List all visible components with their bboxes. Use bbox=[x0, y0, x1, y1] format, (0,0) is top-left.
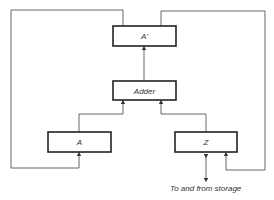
register-z: Z bbox=[175, 132, 237, 152]
storage-caption: To and from storage bbox=[170, 184, 242, 193]
register-a: A bbox=[48, 132, 111, 152]
a-to-adder-wire bbox=[79, 102, 123, 132]
adder-label: Adder bbox=[133, 87, 156, 96]
register-a-prime: A' bbox=[113, 26, 176, 46]
register-a-label: A bbox=[76, 138, 82, 147]
block-diagram: A' Adder A Z To and from storage bbox=[0, 0, 274, 200]
adder: Adder bbox=[113, 81, 176, 100]
z-to-adder-wire bbox=[161, 102, 206, 132]
register-a-prime-label: A' bbox=[140, 32, 148, 41]
